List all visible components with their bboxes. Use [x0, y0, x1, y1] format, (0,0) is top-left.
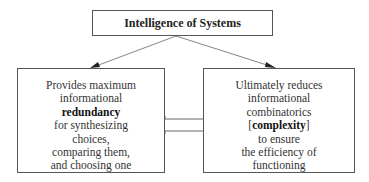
- right-line: the efficiency of: [204, 146, 354, 159]
- left-line: and choosing one: [18, 159, 164, 172]
- right-line: Ultimately reduces: [204, 79, 354, 92]
- title-box: Intelligence of Systems: [92, 10, 273, 36]
- title-text: Intelligence of Systems: [124, 16, 241, 30]
- right-line-keyword: [complexity]: [204, 119, 354, 132]
- left-line: informational: [18, 92, 164, 105]
- left-line: for synthesizing: [18, 119, 164, 132]
- right-line: to ensure: [204, 133, 354, 146]
- right-line: functioning: [204, 159, 354, 172]
- left-line: Provides maximum: [18, 79, 164, 92]
- bracket-close: ]: [306, 119, 310, 131]
- left-line: comparing them,: [18, 146, 164, 159]
- left-line-keyword: redundancy: [18, 106, 164, 119]
- complexity-box: Ultimately reduces informational combina…: [203, 68, 355, 173]
- right-line: informational: [204, 92, 354, 105]
- redundancy-box: Provides maximum informational redundanc…: [17, 68, 165, 173]
- keyword: complexity: [252, 119, 306, 131]
- right-line: combinatorics: [204, 106, 354, 119]
- left-line: choices,: [18, 133, 164, 146]
